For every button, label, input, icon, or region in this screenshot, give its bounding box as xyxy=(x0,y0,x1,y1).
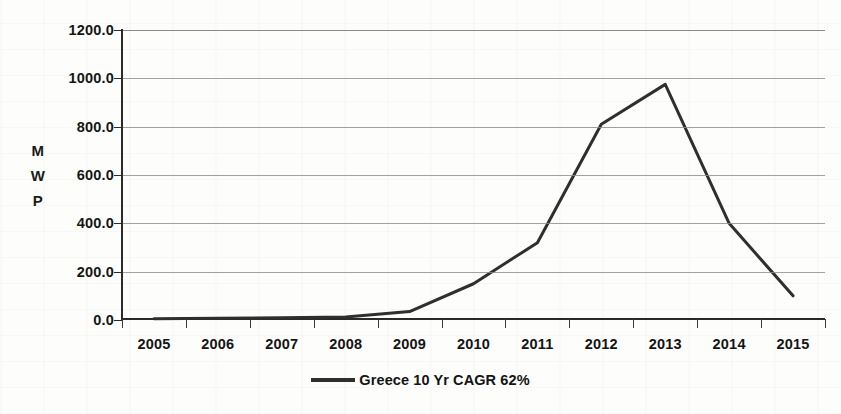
y-tick-mark xyxy=(114,223,123,224)
x-tick-mark xyxy=(314,319,315,328)
gridline xyxy=(122,223,825,224)
x-tick-mark xyxy=(761,319,762,328)
gridline xyxy=(122,175,825,176)
y-tick-label: 800.0 xyxy=(18,119,114,135)
x-tick-label: 2006 xyxy=(201,336,234,352)
legend-item-greece: Greece 10 Yr CAGR 62% xyxy=(311,372,529,388)
y-tick-mark xyxy=(114,272,123,273)
y-tick-label: 200.0 xyxy=(18,264,114,280)
chart-legend: Greece 10 Yr CAGR 62% xyxy=(0,372,841,388)
x-tick-label: 2008 xyxy=(329,336,362,352)
x-tick-mark xyxy=(633,319,634,328)
gridline xyxy=(122,78,825,79)
line-chart: M W P 0.0200.0400.0600.0800.01000.01200.… xyxy=(0,0,841,414)
x-tick-label: 2014 xyxy=(713,336,746,352)
x-tick-label: 2013 xyxy=(649,336,682,352)
x-tick-label: 2011 xyxy=(521,336,553,352)
x-tick-label: 2012 xyxy=(585,336,618,352)
y-tick-mark xyxy=(114,78,123,79)
x-tick-mark xyxy=(825,319,826,328)
x-tick-mark xyxy=(697,319,698,328)
x-tick-mark xyxy=(442,319,443,328)
x-tick-label: 2007 xyxy=(265,336,298,352)
x-tick-mark xyxy=(569,319,570,328)
y-tick-label: 400.0 xyxy=(18,215,114,231)
x-tick-label: 2015 xyxy=(777,336,810,352)
y-tick-mark xyxy=(114,30,123,31)
plot-area xyxy=(122,30,825,320)
series-polyline xyxy=(154,84,793,318)
legend-label: Greece 10 Yr CAGR 62% xyxy=(359,372,529,388)
y-tick-mark xyxy=(114,127,123,128)
y-tick-label: 0.0 xyxy=(18,312,114,328)
gridline xyxy=(122,127,825,128)
x-tick-mark xyxy=(186,319,187,328)
gridline xyxy=(122,30,825,31)
y-tick-mark xyxy=(114,175,123,176)
x-tick-mark xyxy=(250,319,251,328)
x-tick-mark xyxy=(122,319,123,328)
y-tick-label: 600.0 xyxy=(18,167,114,183)
y-tick-label: 1000.0 xyxy=(18,70,114,86)
x-tick-label: 2009 xyxy=(393,336,426,352)
y-axis-tick-labels: 0.0200.0400.0600.0800.01000.01200.0 xyxy=(18,0,114,414)
x-tick-label: 2010 xyxy=(457,336,490,352)
x-tick-mark xyxy=(505,319,506,328)
y-tick-label: 1200.0 xyxy=(18,22,114,38)
gridline xyxy=(122,272,825,273)
x-tick-label: 2005 xyxy=(137,336,170,352)
x-tick-mark xyxy=(378,319,379,328)
x-axis-tick-labels: 2005200620072008200920102011201220132014… xyxy=(122,336,825,362)
legend-line-swatch-icon xyxy=(311,378,355,382)
